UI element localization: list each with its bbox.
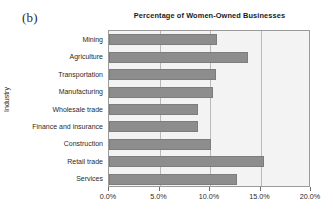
x-axis-tick-labels: 0.0%5.0%10.0%15.0%20.0% bbox=[0, 190, 333, 204]
bar bbox=[109, 139, 211, 150]
x-tick-mark bbox=[310, 187, 311, 191]
x-tick-mark bbox=[260, 187, 261, 191]
bar bbox=[109, 121, 198, 132]
y-tick-label: Construction bbox=[64, 140, 103, 147]
x-tick-label: 5.0% bbox=[150, 192, 166, 201]
bar-series bbox=[109, 31, 309, 186]
bar-row bbox=[109, 31, 311, 48]
bar-row bbox=[109, 83, 311, 100]
x-tick-mark bbox=[159, 187, 160, 191]
bar-row bbox=[109, 48, 311, 65]
bar bbox=[109, 52, 248, 63]
y-tick-label: Services bbox=[76, 175, 103, 182]
bar-row bbox=[109, 171, 311, 188]
x-tick-mark bbox=[209, 187, 210, 191]
bar-row bbox=[109, 101, 311, 118]
y-tick-label: Transportation bbox=[58, 70, 103, 77]
y-axis-label: Industry bbox=[3, 87, 10, 112]
plot-area bbox=[108, 30, 310, 187]
y-tick-label: Manufacturing bbox=[59, 88, 103, 95]
bar bbox=[109, 87, 213, 98]
bar bbox=[109, 104, 198, 115]
bar bbox=[109, 174, 237, 185]
x-tick-label: 0.0% bbox=[100, 192, 116, 201]
bar bbox=[109, 69, 216, 80]
y-axis-tick-labels: MiningAgricultureTransportationManufactu… bbox=[14, 30, 106, 187]
y-tick-label: Wholesale trade bbox=[52, 105, 103, 112]
x-tick-mark bbox=[108, 187, 109, 191]
bar bbox=[109, 156, 264, 167]
x-tick-label: 15.0% bbox=[249, 192, 269, 201]
y-tick-label: Finance and insurance bbox=[32, 122, 103, 129]
x-tick-label: 20.0% bbox=[300, 192, 320, 201]
chart-figure: (b) Percentage of Women-Owned Businesses… bbox=[0, 0, 333, 215]
y-tick-label: Agriculture bbox=[70, 53, 103, 60]
bar-row bbox=[109, 136, 311, 153]
bar-row bbox=[109, 66, 311, 83]
bar-row bbox=[109, 118, 311, 135]
y-tick-label: Retail trade bbox=[67, 157, 103, 164]
panel-label: (b) bbox=[22, 10, 38, 26]
bar bbox=[109, 34, 217, 45]
x-tick-label: 10.0% bbox=[199, 192, 219, 201]
bar-row bbox=[109, 153, 311, 170]
chart-title: Percentage of Women-Owned Businesses bbox=[108, 11, 311, 20]
y-tick-label: Mining bbox=[82, 35, 103, 42]
